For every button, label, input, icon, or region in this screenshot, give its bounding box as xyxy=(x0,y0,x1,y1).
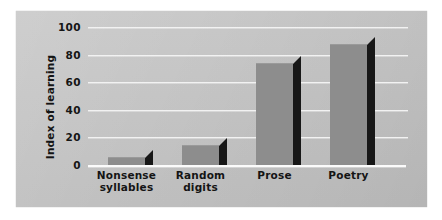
bar-top-random-digits xyxy=(219,138,227,146)
y-tick-label-60: 60 xyxy=(66,76,81,88)
bar-top-poetry xyxy=(367,37,375,45)
x-tick-line-1: Prose xyxy=(257,170,291,182)
y-tick-label-40: 40 xyxy=(66,104,81,116)
x-tick-line-2: syllables xyxy=(97,182,156,194)
y-tick-label-80: 80 xyxy=(66,49,81,61)
bar-shadow-nonsense-syllables xyxy=(145,158,153,165)
bar-shadow-poetry xyxy=(367,45,375,165)
y-axis-title: Index of learning xyxy=(42,52,58,162)
bar-face-random-digits xyxy=(182,145,219,165)
x-tick-label-random-digits: Random digits xyxy=(176,170,226,193)
y-tick-label-20: 20 xyxy=(66,131,81,143)
gridline-0-baseline: 0 xyxy=(88,165,406,167)
bar-top-prose xyxy=(293,56,301,64)
bar-face-poetry xyxy=(330,44,367,165)
bar-shadow-random-digits xyxy=(219,146,227,165)
bar-face-prose xyxy=(256,63,293,165)
y-axis-title-text: Index of learning xyxy=(44,55,56,159)
bar-nonsense-syllables[interactable]: Nonsense syllables xyxy=(108,27,145,165)
bar-random-digits[interactable]: Random digits xyxy=(182,27,219,165)
figure: Index of learning 100 80 60 40 20 0 Nons… xyxy=(0,0,442,220)
bar-face-nonsense-syllables xyxy=(108,157,145,165)
x-tick-line-1: Nonsense xyxy=(97,170,156,182)
x-tick-label-poetry: Poetry xyxy=(328,170,368,182)
bar-poetry[interactable]: Poetry xyxy=(330,27,367,165)
x-tick-label-prose: Prose xyxy=(257,170,291,182)
y-tick-label-0: 0 xyxy=(73,159,81,171)
bar-prose[interactable]: Prose xyxy=(256,27,293,165)
x-tick-line-1: Random xyxy=(176,170,226,182)
x-tick-label-nonsense-syllables: Nonsense syllables xyxy=(97,170,156,193)
x-tick-line-2: digits xyxy=(176,182,226,194)
bar-shadow-prose xyxy=(293,64,301,165)
bar-top-nonsense-syllables xyxy=(145,150,153,158)
plot-area: 100 80 60 40 20 0 Nonsense syllables xyxy=(88,27,408,165)
x-tick-line-1: Poetry xyxy=(328,170,368,182)
y-tick-label-100: 100 xyxy=(58,21,81,33)
